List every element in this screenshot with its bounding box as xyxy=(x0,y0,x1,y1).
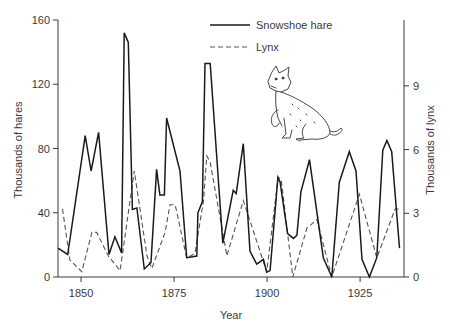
y-right-ticks: 0369 xyxy=(404,80,419,283)
y-right-axis-title: Thousands of lynx xyxy=(424,105,436,195)
y-left-axis-title: Thousands of hares xyxy=(12,101,24,199)
y-right-tick-label: 6 xyxy=(413,144,419,156)
y-right-tick-label: 3 xyxy=(413,207,419,219)
axes: 1850187519001925 04080120160 0369 xyxy=(32,14,419,299)
plot-area xyxy=(58,33,400,277)
population-chart: 1850187519001925 04080120160 0369 Year T… xyxy=(0,0,450,331)
x-tick-label: 1850 xyxy=(69,287,93,299)
lynx-illustration xyxy=(268,66,342,141)
x-tick-label: 1875 xyxy=(162,287,186,299)
legend-lynx-label: Lynx xyxy=(256,41,279,53)
y-left-tick-label: 160 xyxy=(32,14,50,26)
y-left-tick-label: 120 xyxy=(32,78,50,90)
x-tick-label: 1900 xyxy=(255,287,279,299)
y-right-tick-label: 9 xyxy=(413,80,419,92)
lynx-series-line xyxy=(63,156,400,277)
legend: Snowshoe hare Lynx xyxy=(210,19,332,53)
y-left-ticks: 04080120160 xyxy=(32,14,58,283)
y-left-tick-label: 0 xyxy=(44,271,50,283)
legend-hare-label: Snowshoe hare xyxy=(256,19,332,31)
x-ticks: 1850187519001925 xyxy=(69,277,373,299)
y-left-tick-label: 80 xyxy=(38,143,50,155)
x-tick-label: 1925 xyxy=(348,287,372,299)
y-left-tick-label: 40 xyxy=(38,207,50,219)
x-axis-title: Year xyxy=(220,309,243,321)
hare-series-line xyxy=(58,33,400,277)
y-right-tick-label: 0 xyxy=(413,271,419,283)
